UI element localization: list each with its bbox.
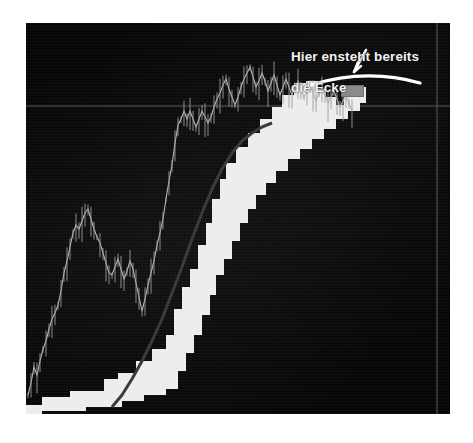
annotation-line-1: Hier ensteht bereits [291,49,419,64]
screenshot-root: Hier ensteht bereits die Ecke [0,0,473,443]
annotation-label: Hier ensteht bereits die Ecke [291,33,419,95]
annotation-line-2: die Ecke [291,80,347,95]
